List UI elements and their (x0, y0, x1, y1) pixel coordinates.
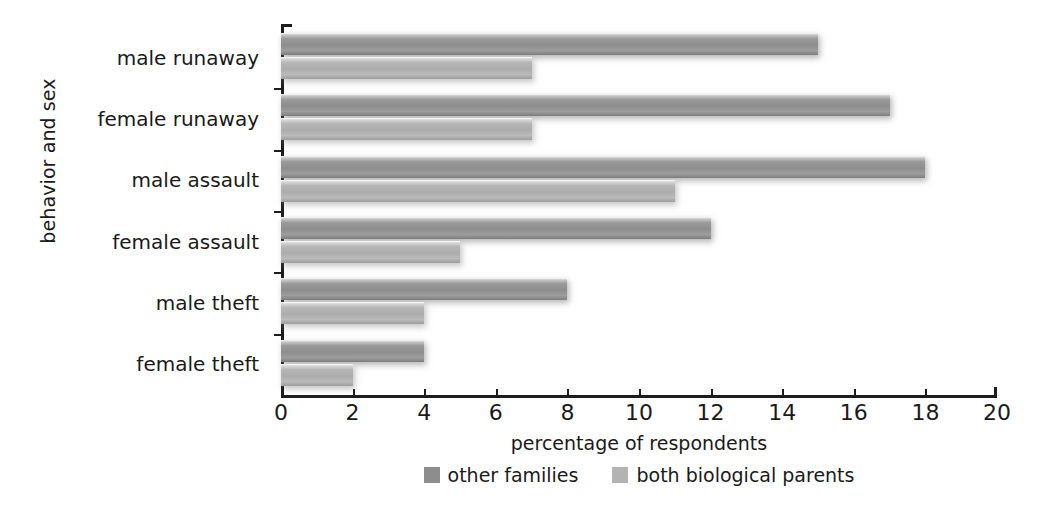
y-axis-tick-label-male-runaway: male runaway (60, 27, 271, 88)
x-axis-tick (639, 389, 641, 397)
y-axis-title: behavior and sex (37, 51, 59, 271)
x-axis-tick-label: 6 (471, 400, 521, 425)
y-axis-tick-label-female-theft: female theft (60, 334, 271, 395)
bar (281, 180, 675, 202)
bar (281, 33, 818, 55)
bar (281, 278, 567, 300)
y-axis-tick-labels: male runaway female runaway male assault… (60, 27, 271, 395)
legend-label-other-families: other families (448, 464, 579, 486)
y-axis-tick (274, 334, 283, 336)
x-axis-tick-label: 14 (757, 400, 807, 425)
y-axis-tick-label-female-assault: female assault (60, 211, 271, 272)
bar-chart: behavior and sex male runaway female run… (0, 0, 1044, 529)
legend-swatch-icon-both-biological-parents (612, 467, 628, 483)
legend-swatch-icon-other-families (424, 467, 440, 483)
x-axis-tick (424, 389, 426, 397)
x-axis-tick-label: 2 (328, 400, 378, 425)
y-axis-tick (274, 150, 283, 152)
bar (281, 217, 711, 239)
bar (281, 94, 890, 116)
bar (281, 241, 460, 263)
bar-group (281, 334, 997, 395)
y-axis-tick (274, 272, 283, 274)
bar (281, 57, 532, 79)
legend: other families both biological parents (281, 464, 997, 486)
legend-label-both-biological-parents: both biological parents (636, 464, 854, 486)
bar-group (281, 211, 997, 272)
x-axis-tick-label: 10 (614, 400, 664, 425)
plot-area (281, 27, 997, 395)
x-axis-tick-label: 8 (542, 400, 592, 425)
bar (281, 302, 424, 324)
x-axis-tick (353, 389, 355, 397)
y-axis-tick (274, 211, 283, 213)
x-axis-tick-label: 12 (686, 400, 736, 425)
bar-group (281, 88, 997, 149)
x-axis-title: percentage of respondents (281, 432, 997, 454)
x-axis-tick (854, 389, 856, 397)
x-axis-tick (925, 389, 927, 397)
x-axis-tick-label: 20 (972, 400, 1022, 425)
y-axis-tick (274, 88, 283, 90)
legend-item-both-biological-parents: both biological parents (612, 464, 854, 486)
bar-group (281, 27, 997, 88)
y-axis-tick-label-male-theft: male theft (60, 272, 271, 333)
y-axis-tick-label-male-assault: male assault (60, 150, 271, 211)
x-axis-tick (496, 389, 498, 397)
x-axis-tick-label: 16 (829, 400, 879, 425)
bar (281, 364, 353, 386)
bar-group (281, 272, 997, 333)
x-axis-tick (567, 389, 569, 397)
x-axis-tick-label: 4 (399, 400, 449, 425)
x-axis-tick-label: 18 (900, 400, 950, 425)
x-axis-tick-label: 0 (256, 400, 306, 425)
x-axis-tick (711, 389, 713, 397)
bar-group (281, 150, 997, 211)
legend-item-other-families: other families (424, 464, 579, 486)
y-axis-tick-label-female-runaway: female runaway (60, 88, 271, 149)
bar (281, 340, 424, 362)
bar (281, 118, 532, 140)
bar (281, 156, 925, 178)
x-axis-tick (782, 389, 784, 397)
